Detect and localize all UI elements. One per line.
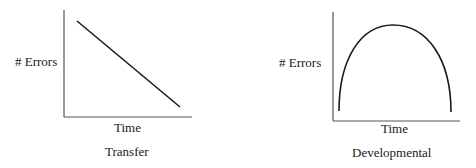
developmental-curve [339,25,451,112]
transfer-y-label: # Errors [15,54,57,70]
transfer-title: Transfer [105,144,149,160]
transfer-x-label: Time [114,120,141,136]
developmental-chart [333,12,460,121]
transfer-chart [64,10,192,117]
transfer-line [77,21,180,107]
diagram-canvas [0,0,476,168]
developmental-x-label: Time [381,121,408,137]
developmental-y-label: # Errors [279,55,321,71]
developmental-title: Developmental [352,145,431,161]
